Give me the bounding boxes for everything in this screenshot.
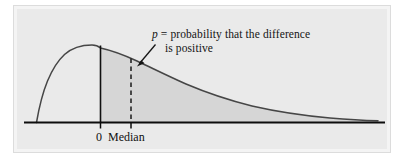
axis-label-zero: 0 xyxy=(96,130,102,145)
axis-label-median: Median xyxy=(108,130,145,145)
annotation-line-1: = probability that the difference xyxy=(158,28,310,40)
probability-annotation: p = probability that the difference is p… xyxy=(152,28,310,55)
annotation-line-2: is positive xyxy=(152,42,310,56)
shaded-probability-area xyxy=(101,48,379,123)
distribution-plot xyxy=(0,0,401,160)
figure-container: p = probability that the difference is p… xyxy=(0,0,401,160)
